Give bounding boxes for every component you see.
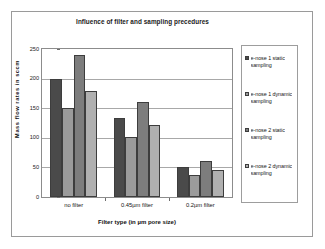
legend-item[interactable]: e-nose 2 dynamicsampling: [245, 163, 298, 177]
chart-screenshot: Influence of filter and sampling precedu…: [0, 0, 325, 249]
bar: [177, 167, 189, 197]
bar: [62, 108, 74, 197]
x-axis-tick-mark: [169, 198, 170, 201]
bar: [189, 175, 201, 197]
bar: [212, 170, 224, 197]
legend-item-label: e-nose 2 dynamicsampling: [251, 163, 293, 177]
bar: [125, 137, 137, 197]
y-axis-tick-label: 200: [19, 75, 39, 82]
legend-swatch-icon: [245, 56, 249, 60]
bar: [149, 125, 161, 197]
x-axis-tick-label: 0.2µm filter: [169, 201, 232, 209]
bar-series-layer: [42, 49, 232, 197]
legend-item-label: e-nose 1 dynamicsampling: [251, 91, 293, 105]
y-axis-title: Mass flow rates in sccm: [14, 39, 20, 159]
bar: [85, 91, 97, 197]
legend-item[interactable]: e-nose 1 dynamicsampling: [245, 91, 298, 105]
y-axis-tick-label: 100: [19, 134, 39, 141]
y-axis-tick-labels: 050100150200250: [19, 44, 39, 202]
y-axis-tick-mark: [57, 197, 60, 198]
y-axis-tick-label: 0: [19, 194, 39, 201]
y-axis-tick-label: 50: [19, 164, 39, 171]
bar: [137, 102, 149, 197]
legend-item[interactable]: e-nose 2 staticsampling: [245, 127, 298, 141]
bar: [200, 161, 212, 197]
legend-item-label: e-nose 2 staticsampling: [251, 127, 285, 141]
y-axis-tick-label: 250: [19, 46, 39, 53]
legend-item-label: e-nose 1 staticsampling: [251, 55, 285, 69]
x-axis-tick-label: no filter: [42, 201, 105, 209]
legend: e-nose 1 staticsamplinge-nose 1 dynamics…: [241, 45, 298, 203]
legend-swatch-icon: [245, 92, 249, 96]
x-axis-tick-label: 0.45µm filter: [105, 201, 168, 209]
bar: [50, 79, 62, 197]
x-axis-title: Filter type (in µm pore size): [41, 218, 233, 226]
chart-title: Influence of filter and sampling precedu…: [45, 18, 240, 26]
x-axis-tick-mark: [105, 198, 106, 201]
y-axis-tick-label: 150: [19, 105, 39, 112]
legend-swatch-icon: [245, 164, 249, 168]
legend-swatch-icon: [245, 128, 249, 132]
bar: [74, 55, 86, 197]
bar: [114, 118, 126, 197]
legend-item[interactable]: e-nose 1 staticsampling: [245, 55, 298, 69]
